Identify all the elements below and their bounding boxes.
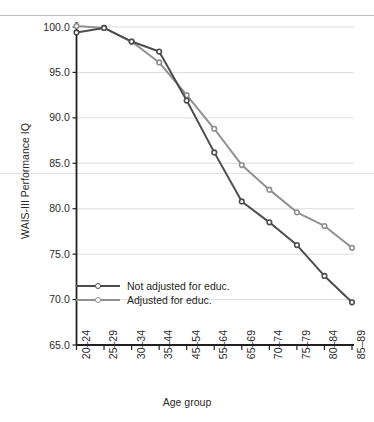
legend-swatch-icon	[76, 294, 120, 306]
data-point	[74, 24, 79, 29]
x-axis-title: Age group	[0, 396, 374, 408]
x-axis-tick-label: 55–64	[218, 330, 229, 390]
x-axis-tick-label: 80–84	[328, 330, 339, 390]
data-point	[322, 274, 327, 279]
x-axis-tick-label: 20–24	[81, 330, 92, 390]
x-axis-tick-label: 25–29	[108, 330, 119, 390]
legend-label: Adjusted for educ.	[120, 294, 212, 306]
data-point	[157, 49, 162, 54]
x-axis-tick-label: 75–79	[301, 330, 312, 390]
data-point	[184, 98, 189, 103]
data-point	[102, 26, 107, 31]
legend-item-not-adjusted: Not adjusted for educ.	[76, 279, 246, 293]
x-axis-tick-label: 65–69	[246, 330, 257, 390]
data-point	[240, 199, 245, 204]
x-axis-tick-label: 30–34	[136, 330, 147, 390]
series-line-not-adjusted	[77, 28, 353, 302]
legend-swatch-icon	[76, 280, 120, 292]
data-point	[350, 245, 355, 250]
data-point	[267, 187, 272, 192]
data-point	[295, 243, 300, 248]
x-axis-tick-label: 70–74	[273, 330, 284, 390]
x-axis-tick-label: 85–89	[356, 330, 367, 390]
chart-figure: 100.095.090.085.080.075.070.065.0 WAIS-I…	[0, 0, 374, 422]
data-point	[212, 150, 217, 155]
data-point	[212, 126, 217, 131]
y-axis-tick-label: 100.0	[24, 22, 70, 33]
legend-label: Not adjusted for educ.	[120, 280, 230, 292]
series-line-adjusted	[77, 26, 353, 248]
data-point	[129, 39, 134, 44]
data-point	[267, 220, 272, 225]
y-axis-title: WAIS-III Performance IQ	[19, 76, 31, 286]
y-axis-tick-label: 70.0	[24, 294, 70, 305]
data-point	[322, 224, 327, 229]
data-point	[74, 30, 79, 35]
data-point	[295, 210, 300, 215]
data-point	[240, 163, 245, 168]
x-axis-tick-label: 35–44	[163, 330, 174, 390]
data-point	[350, 300, 355, 305]
data-point	[157, 60, 162, 65]
x-axis-tick-label: 45–54	[191, 330, 202, 390]
chart-legend: Not adjusted for educ.Adjusted for educ.	[76, 279, 246, 307]
legend-item-adjusted: Adjusted for educ.	[76, 293, 246, 307]
x-axis-tick-labels: 20–2425–2930–3435–4445–5455–6465–6970–74…	[0, 348, 374, 394]
